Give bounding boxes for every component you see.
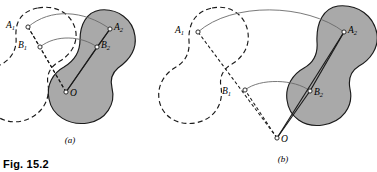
panel-b-radius-O-B1 [245, 90, 277, 138]
point-marker-B1-panel-b [243, 88, 247, 92]
point-marker-A2-panel-b [342, 30, 346, 34]
point-marker-A2-panel-a [108, 27, 112, 31]
point-marker-A1-panel-a [26, 25, 30, 29]
point-marker-O-panel-b [275, 136, 279, 140]
panel-b: A1B1A2B2O (b) [159, 6, 377, 164]
point-label-B1-panel-b: B1 [222, 86, 231, 97]
panel-a-chord-A1-B1 [28, 27, 40, 47]
figure-caption: Fig. 15.2 [3, 158, 49, 170]
point-marker-B2-panel-b [308, 89, 312, 93]
point-marker-B2-panel-a [95, 45, 99, 49]
panel-b-initial-body-dashed [159, 7, 249, 123]
figure-canvas: A1B1A2B2O (a) A1B1A2B2O (b) [0, 0, 377, 172]
point-label-B1-panel-a: B1 [18, 40, 27, 51]
panel-a-label: (a) [65, 135, 76, 145]
figure-15-2: A1B1A2B2O (a) A1B1A2B2O (b) Fig. 15.2 [0, 0, 377, 172]
point-label-A1-panel-b: A1 [174, 25, 184, 36]
point-label-A1-panel-a: A1 [5, 20, 15, 31]
point-marker-O-panel-a [64, 90, 68, 94]
panel-b-label: (b) [278, 154, 289, 164]
panel-b-radius-O-A1 [198, 32, 277, 138]
point-label-O-panel-b: O [281, 134, 288, 144]
panel-a: A1B1A2B2O (a) [0, 7, 135, 145]
point-marker-B1-panel-a [38, 45, 42, 49]
point-label-O-panel-a: O [70, 88, 77, 98]
panel-b-final-body-shaded [287, 6, 377, 126]
point-marker-A1-panel-b [196, 30, 200, 34]
